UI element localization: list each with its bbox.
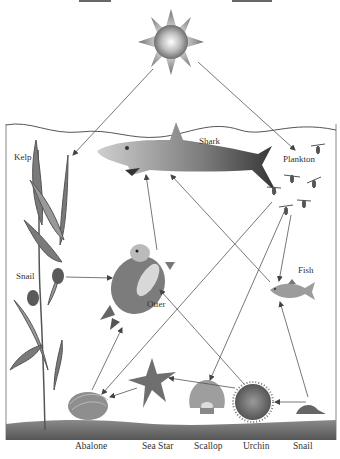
fish-icon	[270, 279, 315, 300]
shark-icon	[97, 122, 277, 193]
arrow-abalone-to-otter	[92, 328, 122, 390]
arrow-plankton-to-fish	[279, 215, 291, 281]
food-web-arrows	[66, 62, 308, 402]
label-urchin: Urchin	[243, 441, 269, 451]
label-snail-kelp: Snail	[16, 271, 35, 281]
kelp-icon	[10, 140, 68, 430]
arrow-plankton-to-scallop	[210, 210, 285, 380]
label-otter: Otter	[147, 299, 166, 309]
snail-on-floor-icon	[296, 405, 326, 414]
label-fish: Fish	[298, 265, 314, 275]
urchin-icon	[233, 382, 273, 422]
arrow-snail-to-otter	[66, 277, 112, 278]
seabed	[6, 420, 336, 440]
arrow-snail-to-fish	[280, 302, 308, 397]
food-web-diagram	[0, 0, 340, 459]
arrow-otter-to-shark	[146, 175, 157, 250]
water-surface	[6, 124, 336, 138]
arrow-seastar-to-abalone	[110, 388, 137, 397]
label-abalone: Abalone	[75, 441, 107, 451]
arrow-fish-to-shark	[171, 175, 270, 282]
label-scallop: Scallop	[194, 441, 223, 451]
label-plankton: Plankton	[283, 154, 315, 164]
sea-star-icon	[128, 358, 176, 408]
label-shark: Shark	[199, 136, 220, 146]
abalone-icon	[68, 392, 108, 420]
scallop-icon	[189, 380, 225, 414]
sun-icon	[138, 9, 204, 75]
label-sea-star: Sea Star	[142, 441, 173, 451]
label-kelp: Kelp	[14, 152, 32, 162]
otter-icon	[100, 244, 176, 330]
label-snail-floor: Snail	[293, 441, 313, 451]
arrow-urchin-to-otter	[160, 290, 244, 384]
